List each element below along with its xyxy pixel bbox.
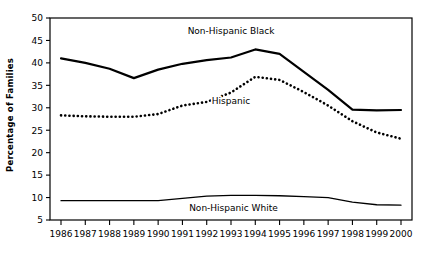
x-tick-label: 1999 [365, 229, 388, 239]
y-tick-label: 25 [32, 126, 43, 136]
x-tick-label: 1986 [50, 229, 73, 239]
y-tick-label: 10 [32, 193, 44, 203]
x-tick-label: 1998 [341, 229, 364, 239]
plot-frame [50, 18, 412, 220]
x-tick-label: 1987 [74, 229, 97, 239]
y-tick-label: 40 [32, 58, 44, 68]
series-label-non-hispanic-black: Non-Hispanic Black [188, 26, 276, 36]
x-tick-label: 1988 [98, 229, 121, 239]
y-tick-label: 20 [32, 148, 44, 158]
y-tick-label: 35 [32, 81, 43, 91]
y-axis-ticks: 5101520253035404550 [32, 13, 50, 225]
x-tick-label: 1995 [268, 229, 291, 239]
y-tick-label: 30 [32, 103, 44, 113]
x-tick-label: 1996 [292, 229, 315, 239]
line-chart-plot: 5101520253035404550 19861987198819891990… [0, 0, 429, 257]
x-tick-label: 1991 [171, 229, 194, 239]
y-tick-label: 50 [32, 13, 44, 23]
x-tick-label: 1997 [317, 229, 340, 239]
chart-container: Percentage of Families 51015202530354045… [0, 0, 429, 257]
y-tick-label: 45 [32, 36, 43, 46]
series-label-non-hispanic-white: Non-Hispanic White [189, 203, 278, 213]
x-tick-label: 1994 [244, 229, 267, 239]
series-label-hispanic: Hispanic [212, 96, 250, 106]
x-tick-label: 1992 [195, 229, 218, 239]
y-tick-label: 15 [32, 170, 43, 180]
x-tick-label: 1989 [122, 229, 145, 239]
x-tick-label: 2000 [390, 229, 413, 239]
x-tick-label: 1990 [147, 229, 170, 239]
x-tick-label: 1993 [220, 229, 243, 239]
x-axis-ticks: 1986198719881989199019911992199319941995… [50, 220, 413, 239]
y-tick-label: 5 [37, 215, 43, 225]
